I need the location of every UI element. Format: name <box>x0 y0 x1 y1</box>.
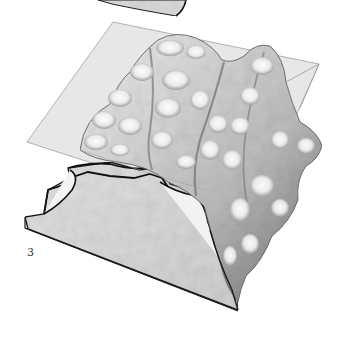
terrain-block-diagram <box>0 0 341 337</box>
upper-block-fragment <box>98 0 186 16</box>
panel-label: 3 <box>27 246 34 259</box>
